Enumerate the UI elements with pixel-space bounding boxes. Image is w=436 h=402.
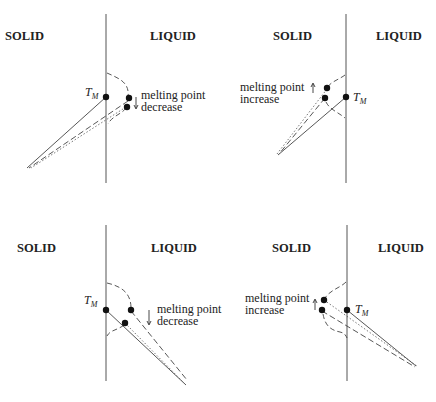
note-line2: increase: [240, 92, 279, 106]
shift-curve: [107, 283, 131, 308]
solid-label: SOLID: [273, 29, 312, 43]
dotted-line: [277, 89, 327, 154]
shifted-point: [321, 297, 327, 303]
panel-top-left: SOLID LIQUID TM melting point decrease: [5, 14, 206, 183]
dotted-line: [324, 300, 417, 366]
tm-point: [103, 307, 109, 313]
shift-curve-lower: [108, 108, 126, 124]
melting-point-diagram: SOLID LIQUID TM melting point decrease S…: [0, 0, 436, 402]
shift-curve-lower: [107, 325, 124, 336]
tm-label: TM: [85, 85, 100, 101]
shifted-point: [319, 307, 325, 313]
shift-curve: [107, 73, 128, 97]
solid-label: SOLID: [17, 241, 56, 255]
tm-label: TM: [84, 293, 99, 309]
tm-point: [343, 94, 349, 100]
dashed-line: [279, 98, 325, 154]
liquid-label: LIQUID: [151, 241, 197, 255]
shifted-point: [126, 95, 132, 101]
arrow-up-icon: [313, 299, 317, 310]
solid-line: [278, 97, 346, 155]
tm-label: TM: [353, 90, 368, 106]
dotted-line: [125, 323, 184, 383]
shift-curve: [325, 282, 346, 298]
note-line2: decrease: [141, 100, 182, 114]
liquid-label: LIQUID: [150, 29, 196, 43]
shifted-point: [122, 320, 128, 326]
panel-bottom-left: SOLID LIQUID TM melting point decrease: [17, 225, 222, 385]
shift-curve-lower: [326, 102, 345, 118]
tm-label: TM: [355, 302, 370, 318]
note-line2: decrease: [157, 314, 198, 328]
arrow-down-icon: [147, 310, 151, 325]
tm-point: [103, 94, 109, 100]
panel-top-right: SOLID LIQUID TM melting point increase: [240, 14, 422, 183]
dotted-line: [31, 107, 126, 168]
solid-label: SOLID: [5, 29, 44, 43]
shifted-point: [128, 307, 134, 313]
liquid-label: LIQUID: [378, 241, 424, 255]
tm-point: [344, 307, 350, 313]
note-line2: increase: [245, 303, 284, 317]
arrow-up-icon: [311, 83, 315, 93]
arrow-down-icon: [134, 97, 138, 109]
solid-label: SOLID: [272, 241, 311, 255]
panel-bottom-right: SOLID LIQUID TM melting point increase: [245, 225, 424, 381]
dashed-line: [29, 101, 128, 168]
shifted-point: [324, 85, 330, 91]
shift-curve-lower: [323, 314, 347, 338]
dashed-line: [322, 311, 415, 367]
shifted-point: [322, 95, 328, 101]
solid-line: [27, 97, 106, 168]
shifted-point: [124, 104, 130, 110]
shift-curve: [327, 75, 345, 88]
liquid-label: LIQUID: [376, 29, 422, 43]
solid-line: [347, 310, 416, 366]
